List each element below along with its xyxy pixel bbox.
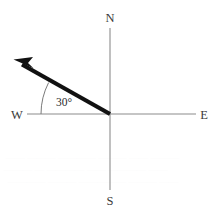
angle-value-label: 30° bbox=[56, 96, 73, 108]
angle-arc bbox=[41, 83, 49, 114]
west-label: W bbox=[11, 108, 23, 122]
east-label: E bbox=[200, 108, 208, 122]
compass-diagram: —— ——— ———— ——— —— ——— ——— — ———— —— ———… bbox=[0, 0, 223, 212]
north-label: N bbox=[105, 11, 114, 25]
compass-diagram-canvas: N S W E 30° bbox=[0, 0, 223, 212]
south-label: S bbox=[107, 194, 114, 208]
